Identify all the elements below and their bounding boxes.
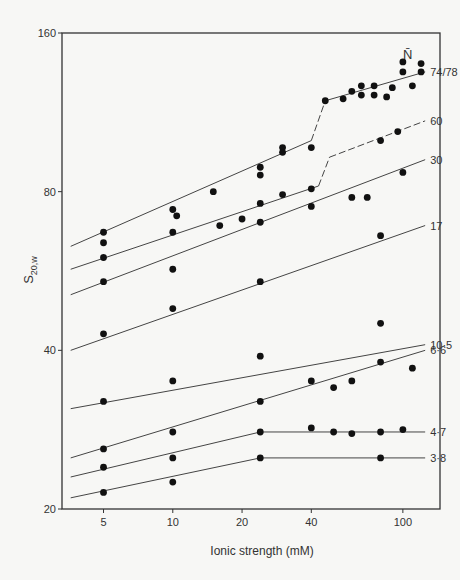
series-line-60 bbox=[71, 186, 319, 269]
series-line-60 bbox=[330, 121, 426, 157]
data-point bbox=[340, 95, 347, 102]
data-point bbox=[257, 455, 264, 462]
series-label: 30 bbox=[430, 154, 442, 166]
y-axis-label-sub: 20,w bbox=[29, 256, 39, 276]
data-point bbox=[348, 194, 355, 201]
data-point bbox=[169, 229, 176, 236]
data-point bbox=[377, 232, 384, 239]
y-tick-label: 40 bbox=[44, 344, 56, 356]
x-tick-label: 10 bbox=[167, 516, 179, 528]
data-point bbox=[399, 169, 406, 176]
series-points bbox=[100, 59, 424, 496]
series-labels: 74/7860301710·56·64·73·8 bbox=[430, 66, 458, 464]
x-tick-label: 5 bbox=[100, 516, 106, 528]
data-point bbox=[377, 359, 384, 366]
data-point bbox=[418, 60, 425, 67]
data-point bbox=[169, 455, 176, 462]
x-axis-label: Ionic strength (mM) bbox=[210, 544, 313, 558]
data-point bbox=[348, 88, 355, 95]
data-point bbox=[169, 206, 176, 213]
data-point bbox=[394, 128, 401, 135]
series-label: 74/78 bbox=[430, 66, 458, 78]
data-point bbox=[377, 429, 384, 436]
data-point bbox=[348, 430, 355, 437]
data-point bbox=[371, 92, 378, 99]
data-point bbox=[100, 446, 107, 453]
data-point bbox=[308, 203, 315, 210]
data-point bbox=[399, 426, 406, 433]
series-line-60 bbox=[319, 157, 330, 186]
series-label: 60 bbox=[430, 115, 442, 127]
data-point bbox=[330, 429, 337, 436]
series-line-10.5 bbox=[71, 345, 425, 409]
y-tick-label: 20 bbox=[44, 503, 56, 515]
series-line-6.6 bbox=[71, 350, 425, 458]
data-point bbox=[330, 384, 337, 391]
series-label: 6·6 bbox=[430, 344, 446, 356]
series-line-17 bbox=[71, 226, 425, 351]
series-line-30 bbox=[71, 160, 425, 295]
data-point bbox=[322, 97, 329, 104]
data-point bbox=[169, 305, 176, 312]
data-point bbox=[100, 398, 107, 405]
y-tick-label: 160 bbox=[38, 27, 56, 39]
data-point bbox=[409, 365, 416, 372]
data-point bbox=[169, 266, 176, 273]
data-point bbox=[100, 229, 107, 236]
data-point bbox=[169, 479, 176, 486]
plot-axes: 5102040100204080160 bbox=[38, 27, 440, 528]
data-point bbox=[257, 200, 264, 207]
data-point bbox=[257, 278, 264, 285]
data-point bbox=[409, 82, 416, 89]
data-point bbox=[371, 82, 378, 89]
x-tick-label: 40 bbox=[305, 516, 317, 528]
data-point bbox=[169, 429, 176, 436]
data-point bbox=[358, 82, 365, 89]
data-point bbox=[418, 68, 425, 75]
data-point bbox=[100, 239, 107, 246]
y-tick-label: 80 bbox=[44, 186, 56, 198]
data-point bbox=[100, 254, 107, 261]
plot-frame bbox=[62, 33, 440, 509]
data-point bbox=[348, 377, 355, 384]
data-point bbox=[279, 149, 286, 156]
data-point bbox=[358, 92, 365, 99]
series-line-4.7 bbox=[71, 432, 261, 477]
data-point bbox=[257, 429, 264, 436]
data-point bbox=[308, 377, 315, 384]
data-point bbox=[399, 68, 406, 75]
data-point bbox=[216, 222, 223, 229]
data-point bbox=[389, 84, 396, 91]
data-point bbox=[308, 425, 315, 432]
sedimentation-chart: 5102040100204080160 74/7860301710·56·64·… bbox=[0, 0, 460, 580]
y-axis-label-main: S bbox=[21, 275, 36, 284]
data-point bbox=[100, 489, 107, 496]
data-point bbox=[377, 455, 384, 462]
series-line-74/78 bbox=[311, 101, 325, 141]
data-point bbox=[377, 320, 384, 327]
series-label: 17 bbox=[430, 220, 442, 232]
x-tick-label: 20 bbox=[236, 516, 248, 528]
data-point bbox=[383, 94, 390, 101]
data-point bbox=[210, 188, 217, 195]
legend-title-nbar: N̄ bbox=[403, 47, 412, 62]
data-point bbox=[364, 194, 371, 201]
data-point bbox=[173, 212, 180, 219]
data-point bbox=[257, 164, 264, 171]
data-point bbox=[279, 191, 286, 198]
data-point bbox=[257, 219, 264, 226]
x-tick-label: 100 bbox=[394, 516, 412, 528]
series-line-74/78 bbox=[71, 141, 312, 247]
series-label: 3·8 bbox=[430, 452, 446, 464]
data-point bbox=[257, 398, 264, 405]
series-line-3.8 bbox=[71, 458, 261, 498]
series-label: 4·7 bbox=[430, 426, 446, 438]
data-point bbox=[169, 377, 176, 384]
series-lines bbox=[71, 72, 425, 498]
data-point bbox=[377, 137, 384, 144]
data-point bbox=[239, 216, 246, 223]
data-point bbox=[257, 172, 264, 179]
data-point bbox=[100, 330, 107, 337]
data-point bbox=[100, 278, 107, 285]
data-point bbox=[257, 353, 264, 360]
